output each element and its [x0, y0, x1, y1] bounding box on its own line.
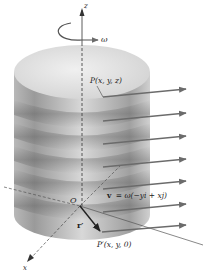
- point-P-label: P(x, y, z): [89, 76, 122, 85]
- omega-label: ω: [101, 35, 108, 44]
- rotating-cylinder-diagram: z ω x O r′ P(x, y, z) v = ω(−yi + xj) P′…: [0, 0, 203, 275]
- x-axis-arrowhead: [27, 254, 34, 262]
- velocity-symbol: v: [106, 191, 112, 200]
- r-prime-label: r′: [77, 220, 83, 230]
- velocity-formula: = ω(−yi + xj): [116, 191, 167, 200]
- origin-label: O: [70, 196, 77, 205]
- z-axis-label: z: [83, 2, 88, 10]
- velocity-equation-label: v = ω(−yi + xj): [106, 191, 167, 200]
- rotation-arrow: [58, 23, 98, 40]
- x-axis-label: x: [23, 264, 27, 272]
- point-P-prime-label: P′(x, y, 0): [96, 240, 131, 249]
